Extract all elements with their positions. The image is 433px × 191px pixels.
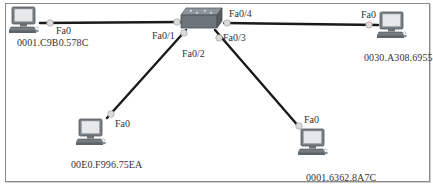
pc1-port-label: Fa0 [361, 9, 376, 20]
switch-port-label-fa04: Fa0/4 [229, 8, 252, 19]
switch-icon [180, 7, 224, 31]
port-dot-sw-fa04 [224, 20, 230, 26]
pc-0001-6362-8a7c[interactable] [298, 128, 328, 158]
port-dot-pc0 [47, 20, 53, 26]
link-pc0-switch[interactable] [40, 22, 182, 23]
pc-0030-a308-6955[interactable] [377, 11, 407, 41]
pc-icon [76, 118, 106, 148]
pc-icon [9, 6, 39, 36]
pc-icon [298, 128, 328, 158]
switch-device[interactable] [180, 7, 224, 31]
pc-0001-c9b0-578c[interactable] [9, 6, 39, 36]
link-pc3-switch[interactable] [215, 30, 300, 128]
port-dot-pc2 [108, 111, 114, 117]
port-dot-pc1 [366, 22, 372, 28]
switch-port-label-fa03: Fa0/3 [223, 32, 246, 43]
switch-port-label-fa01: Fa0/1 [152, 30, 175, 41]
pc2-port-label: Fa0 [115, 118, 130, 129]
link-pc1-switch[interactable] [224, 23, 378, 25]
pc-00e0-f996-75ea[interactable] [76, 118, 106, 148]
pc1-mac-label: 0030.A308.6955 [364, 52, 433, 63]
pc3-port-label: Fa0 [304, 114, 319, 125]
pc3-mac-label: 0001.6362.8A7C [306, 172, 376, 183]
switch-port-label-fa02: Fa0/2 [182, 48, 205, 59]
pc-icon [377, 11, 407, 41]
port-dot-sw-fa03 [216, 35, 222, 41]
pc0-mac-label: 0001.C9B0.578C [17, 37, 88, 48]
pc2-mac-label: 00E0.F996.75EA [71, 159, 142, 170]
link-pc2-switch[interactable] [107, 30, 186, 118]
pc0-port-label: Fa0 [56, 25, 71, 36]
